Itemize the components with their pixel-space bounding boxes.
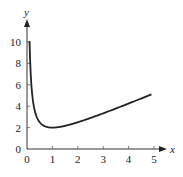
line-chart: 0123450246810 x y xyxy=(0,0,183,177)
x-axis-arrow-icon xyxy=(159,146,167,152)
y-axis-arrow-icon xyxy=(24,19,30,27)
y-tick-label: 0 xyxy=(16,143,22,155)
x-tick-label: 4 xyxy=(126,153,132,165)
x-tick-label: 1 xyxy=(50,153,56,165)
y-axis-label: y xyxy=(23,6,29,18)
y-tick-label: 10 xyxy=(10,36,22,48)
y-tick-label: 4 xyxy=(16,100,22,112)
axes xyxy=(24,19,167,152)
y-tick-label: 2 xyxy=(16,122,22,134)
x-tick-label: 3 xyxy=(100,153,106,165)
x-tick-label: 5 xyxy=(151,153,157,165)
x-tick-label: 0 xyxy=(24,153,30,165)
function-curve xyxy=(30,41,152,128)
x-axis-label: x xyxy=(169,143,175,155)
y-tick-label: 8 xyxy=(16,57,22,69)
y-tick-label: 6 xyxy=(16,79,22,91)
x-tick-label: 2 xyxy=(75,153,81,165)
